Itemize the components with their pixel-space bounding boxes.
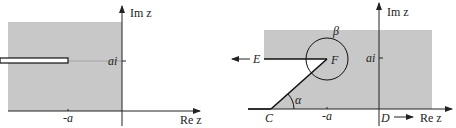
alpha-label: α bbox=[295, 93, 302, 107]
right-re-label: Re z bbox=[420, 111, 442, 125]
left-slit bbox=[0, 58, 68, 63]
left-shaded-region bbox=[8, 22, 122, 111]
right-neg-a-label: -a bbox=[322, 109, 332, 123]
point-F-label: F bbox=[330, 53, 339, 67]
left-im-label: Im z bbox=[130, 6, 152, 20]
right-im-label: Im z bbox=[387, 5, 409, 19]
diagram-canvas: Im z Re z ai -a Im z Re z ai -a E F C D … bbox=[0, 0, 456, 128]
beta-label: β bbox=[332, 24, 339, 38]
right-ai-label: ai bbox=[366, 51, 375, 65]
left-re-label: Re z bbox=[180, 113, 202, 127]
point-E-label: E bbox=[252, 52, 261, 66]
left-neg-a-label: -a bbox=[63, 111, 73, 125]
point-D-label: D bbox=[380, 111, 390, 125]
right-diagram: Im z Re z ai -a E F C D α β bbox=[232, 3, 452, 126]
left-diagram: Im z Re z ai -a bbox=[0, 6, 202, 127]
point-C-label: C bbox=[265, 111, 274, 125]
left-ai-label: ai bbox=[108, 54, 117, 68]
